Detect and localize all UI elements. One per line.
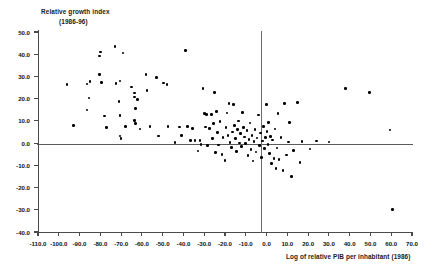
data-point <box>315 140 318 143</box>
data-point <box>189 139 192 142</box>
y-tick-label: 20.0 <box>6 95 30 102</box>
x-tick <box>100 232 101 236</box>
data-point <box>224 159 227 162</box>
y-tick-label: -20.0 <box>6 184 30 191</box>
data-point <box>240 145 243 148</box>
data-point <box>139 128 142 131</box>
data-point <box>228 102 231 105</box>
data-point <box>236 128 239 131</box>
data-point <box>264 136 267 139</box>
data-point <box>167 125 170 128</box>
data-point <box>227 134 230 137</box>
data-point <box>89 80 92 83</box>
data-point <box>66 83 69 86</box>
data-point <box>136 98 139 101</box>
data-point <box>230 146 233 149</box>
scatter-plot-figure: Relative growth index (1986-96) 50.040.0… <box>0 0 426 272</box>
data-point <box>252 160 255 163</box>
x-tick <box>287 232 288 236</box>
data-point <box>265 103 268 106</box>
data-point <box>130 86 133 89</box>
data-point <box>267 143 270 146</box>
x-tick <box>204 232 205 236</box>
data-point <box>212 122 215 125</box>
data-point <box>389 129 392 132</box>
data-point <box>243 136 246 139</box>
data-point <box>178 126 181 129</box>
data-point <box>256 137 259 140</box>
x-tick <box>162 232 163 236</box>
data-point <box>213 91 216 94</box>
x-tick <box>245 232 246 236</box>
data-point <box>114 45 117 48</box>
x-tick <box>349 232 350 236</box>
data-point <box>98 55 101 58</box>
x-tick <box>411 232 412 236</box>
y-tick-label: 30.0 <box>6 73 30 80</box>
data-point <box>292 149 295 152</box>
chart-title: Relative growth index <box>41 8 110 15</box>
data-point <box>238 142 241 145</box>
data-point <box>301 140 304 143</box>
data-point <box>157 135 160 138</box>
y-tick <box>34 120 38 121</box>
data-point <box>211 137 214 140</box>
data-point <box>247 154 250 157</box>
data-point <box>249 122 252 125</box>
data-point <box>72 124 75 127</box>
zero-horizontal-line <box>37 144 413 145</box>
data-point <box>290 175 293 178</box>
data-point <box>119 80 122 83</box>
y-tick <box>34 98 38 99</box>
data-point <box>222 136 225 139</box>
data-point <box>134 107 137 110</box>
data-point <box>368 91 371 94</box>
data-point <box>276 147 279 150</box>
data-point <box>277 112 280 115</box>
data-point <box>216 131 219 134</box>
data-point <box>391 208 394 211</box>
data-point <box>234 137 237 140</box>
data-point <box>241 111 244 114</box>
data-point <box>146 89 149 92</box>
data-point <box>246 129 249 132</box>
data-point <box>133 92 136 95</box>
data-point <box>100 81 103 84</box>
y-tick <box>34 165 38 166</box>
data-point <box>191 127 194 130</box>
data-point <box>221 153 224 156</box>
chart-subtitle: (1986-96) <box>59 18 88 25</box>
data-point <box>86 109 89 112</box>
x-tick <box>224 232 225 236</box>
data-point <box>278 158 281 161</box>
data-point <box>239 132 242 135</box>
data-point <box>266 130 269 133</box>
data-point <box>162 82 165 85</box>
data-point <box>299 161 302 164</box>
data-point <box>194 139 197 142</box>
data-point <box>282 169 285 172</box>
data-point <box>255 151 258 154</box>
data-point <box>119 114 122 117</box>
data-point <box>180 134 183 137</box>
y-tick <box>34 31 38 32</box>
data-point <box>283 102 286 105</box>
data-point <box>232 103 235 106</box>
x-tick <box>121 232 122 236</box>
y-tick <box>34 143 38 144</box>
data-point <box>273 157 276 160</box>
data-point <box>205 113 208 116</box>
data-point <box>226 112 229 115</box>
data-point <box>184 49 187 52</box>
data-point <box>105 126 108 129</box>
data-point <box>280 136 283 139</box>
data-point <box>219 120 222 123</box>
data-point <box>242 126 245 129</box>
x-tick <box>79 232 80 236</box>
data-point <box>285 154 288 157</box>
data-point <box>269 135 272 138</box>
y-tick-label: -10.0 <box>6 162 30 169</box>
data-point <box>309 148 312 151</box>
data-point <box>248 138 251 141</box>
data-point <box>208 127 211 130</box>
